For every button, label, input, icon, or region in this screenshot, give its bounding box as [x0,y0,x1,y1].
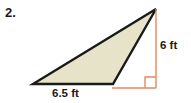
triangle-diagram [0,0,191,103]
base-length-label: 6.5 ft [52,88,79,100]
triangle-shape [33,9,156,84]
right-angle-marker-icon [145,77,156,88]
geometry-problem-figure: 2. 6.5 ft 6 ft [0,0,191,103]
height-length-label: 6 ft [160,40,177,52]
